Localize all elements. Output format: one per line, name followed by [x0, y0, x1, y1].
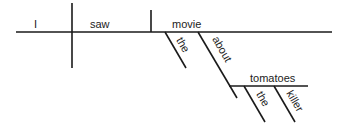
diagram-canvas: I saw movie the about tomatoes the kille… — [0, 0, 347, 129]
word-verb: saw — [90, 18, 110, 30]
word-prep-object: tomatoes — [250, 72, 296, 84]
sentence-diagram: I saw movie the about tomatoes the kille… — [0, 0, 347, 129]
word-subject: I — [34, 18, 37, 30]
word-object: movie — [172, 18, 201, 30]
word-prep-object-article: the — [254, 89, 272, 108]
